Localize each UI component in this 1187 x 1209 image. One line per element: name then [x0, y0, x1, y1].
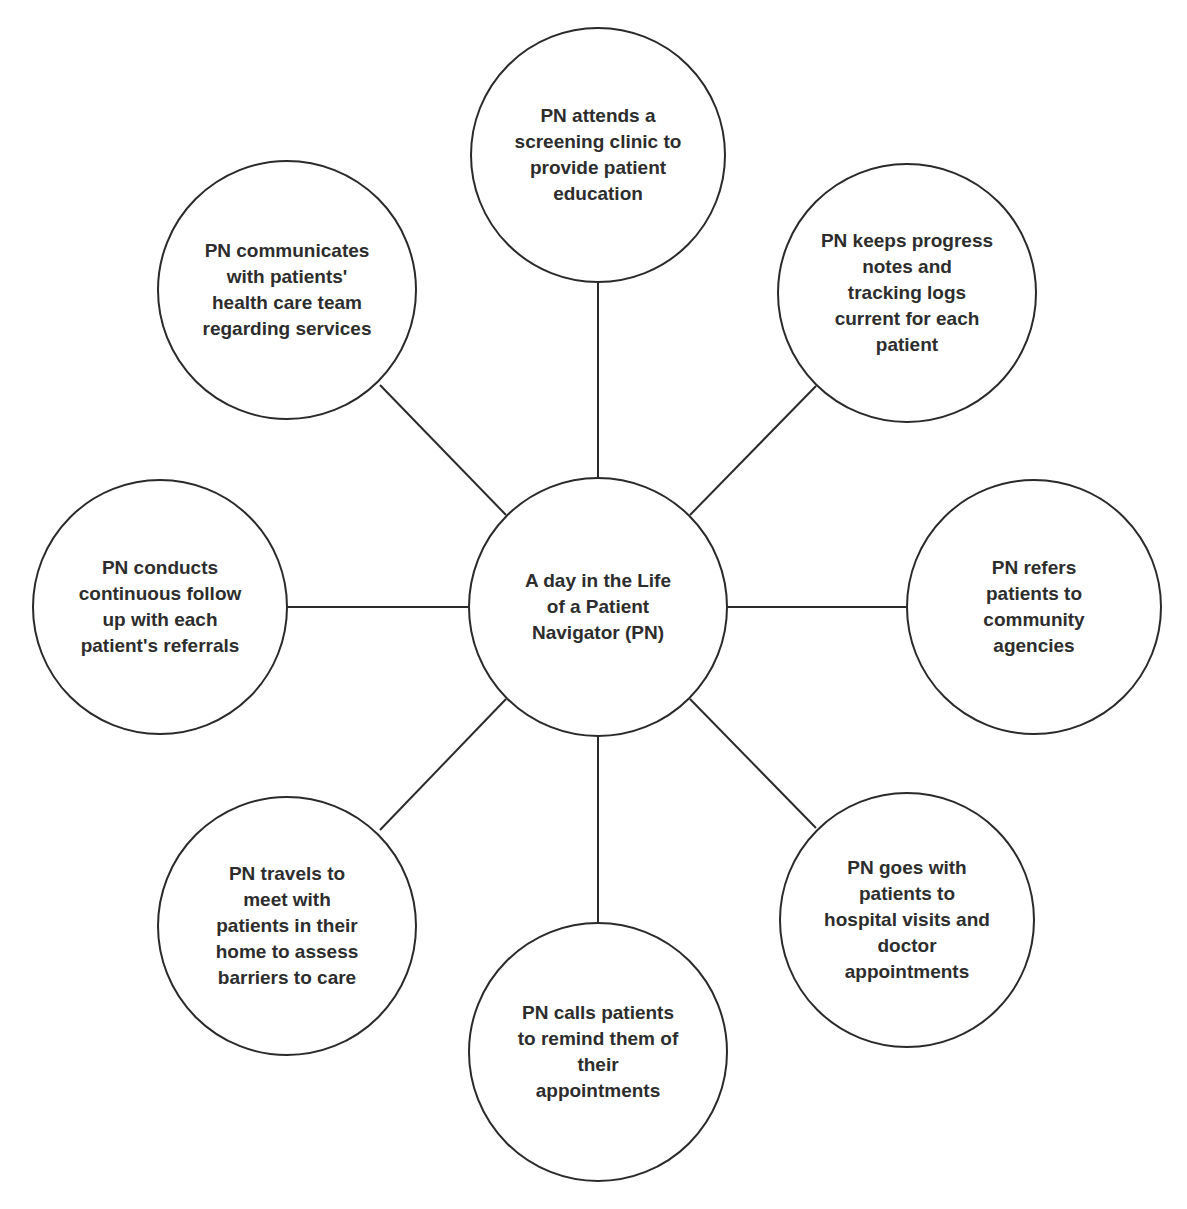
node-top: PN attends a screening clinic to provide…	[470, 27, 726, 283]
node-bottom-right-label: PN goes with patients to hospital visits…	[824, 855, 990, 985]
node-right-label: PN refers patients to community agencies	[983, 555, 1084, 659]
node-bottom-right: PN goes with patients to hospital visits…	[779, 792, 1035, 1048]
node-top-right-label: PN keeps progress notes and tracking log…	[821, 228, 993, 358]
node-top-right: PN keeps progress notes and tracking log…	[777, 163, 1037, 423]
node-bottom: PN calls patients to remind them of thei…	[468, 922, 728, 1182]
node-bottom-label: PN calls patients to remind them of thei…	[518, 1000, 678, 1104]
node-left: PN conducts continuous follow up with ea…	[32, 479, 288, 735]
connector-top-left	[380, 385, 506, 515]
connector-bottom-right	[690, 699, 816, 828]
node-top-label: PN attends a screening clinic to provide…	[515, 103, 682, 207]
node-left-label: PN conducts continuous follow up with ea…	[79, 555, 242, 659]
node-bottom-left: PN travels to meet with patients in thei…	[157, 796, 417, 1056]
node-right: PN refers patients to community agencies	[906, 479, 1162, 735]
node-top-left: PN communicates with patients' health ca…	[157, 160, 417, 420]
connector-top-right	[690, 386, 816, 515]
node-top-left-label: PN communicates with patients' health ca…	[203, 238, 372, 342]
connector-bottom-left	[380, 699, 506, 830]
center-node: A day in the Life of a Patient Navigator…	[468, 477, 728, 737]
node-bottom-left-label: PN travels to meet with patients in thei…	[216, 861, 359, 991]
center-node-label: A day in the Life of a Patient Navigator…	[525, 568, 671, 646]
